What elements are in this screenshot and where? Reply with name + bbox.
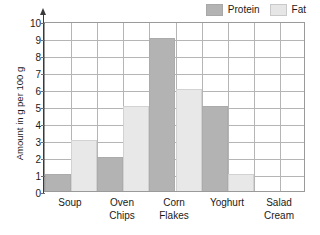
bar-fat-yoghurt: [228, 174, 254, 191]
y-tick-label: 3: [35, 137, 41, 148]
x-label-line: Yoghurt: [201, 196, 253, 209]
bar-protein-corn-flakes: [149, 38, 175, 191]
bar-fat-corn-flakes: [176, 89, 202, 191]
bars-layer: [45, 23, 304, 191]
chart-legend: Protein Fat: [206, 2, 306, 18]
x-axis-labels: SoupOvenChipsCornFlakesYoghurtSaladCream: [44, 196, 305, 234]
bar-protein-soup: [45, 174, 71, 191]
bar-protein-oven-chips: [97, 157, 123, 191]
x-label-line: Salad: [253, 196, 305, 209]
y-tick-label: 5: [35, 103, 41, 114]
x-axis-label-yoghurt: Yoghurt: [201, 196, 253, 209]
y-tick-label: 7: [35, 69, 41, 80]
bar-chart: Protein Fat Amount in g per 100 g 012345…: [0, 0, 320, 235]
y-tick-label: 8: [35, 52, 41, 63]
x-axis-label-oven-chips: OvenChips: [96, 196, 148, 222]
y-tick-label: 1: [35, 171, 41, 182]
y-tick-label: 6: [35, 86, 41, 97]
legend-item-fat: Fat: [270, 4, 306, 16]
bar-fat-soup: [71, 140, 97, 191]
x-label-line: Oven: [96, 196, 148, 209]
y-axis-arrow-icon: [40, 8, 46, 15]
x-axis-label-corn-flakes: CornFlakes: [148, 196, 200, 222]
y-axis-title: Amount in g per 100 g: [14, 39, 25, 189]
x-label-line: Soup: [44, 196, 96, 209]
x-label-line: Cream: [253, 209, 305, 222]
y-tick-label: 2: [35, 154, 41, 165]
x-label-line: Flakes: [148, 209, 200, 222]
y-tick-label: 4: [35, 120, 41, 131]
y-tick-mark: [41, 193, 45, 194]
y-tick-label: 10: [30, 18, 41, 29]
legend-label-fat: Fat: [292, 4, 306, 16]
y-tick-label: 0: [35, 188, 41, 199]
x-label-line: Corn: [148, 196, 200, 209]
bar-protein-yoghurt: [202, 106, 228, 191]
x-axis-label-salad-cream: SaladCream: [253, 196, 305, 222]
legend-item-protein: Protein: [206, 4, 260, 16]
y-tick-label: 9: [35, 35, 41, 46]
x-axis-label-soup: Soup: [44, 196, 96, 209]
bar-fat-oven-chips: [123, 106, 149, 191]
legend-label-protein: Protein: [228, 4, 260, 16]
x-label-line: Chips: [96, 209, 148, 222]
plot-area: 012345678910: [44, 22, 305, 192]
fat-swatch-icon: [270, 4, 287, 16]
protein-swatch-icon: [206, 4, 223, 16]
